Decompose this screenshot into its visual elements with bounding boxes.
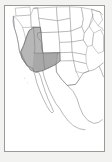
- state-colorado: [41, 32, 60, 53]
- baja-california-outline: [33, 68, 54, 113]
- state-oklahoma: [60, 52, 74, 61]
- florida-edge-hint: [99, 66, 103, 77]
- mexico-gulf-coast: [67, 85, 102, 123]
- state-michigan: [92, 9, 103, 25]
- state-south-dakota: [57, 18, 71, 32]
- map-figure: Map of the western United States and nor…: [0, 0, 112, 162]
- offshore-island-marks: [24, 78, 28, 83]
- map-frame: [4, 5, 105, 152]
- state-nebraska: [58, 31, 71, 42]
- state-washington: [15, 7, 30, 16]
- states-east-edge: [92, 30, 103, 54]
- shaded-range-core: [32, 53, 57, 72]
- state-wyoming: [39, 18, 59, 32]
- state-kansas: [59, 42, 72, 53]
- state-louisiana: [74, 61, 89, 73]
- map-svg: [5, 6, 104, 151]
